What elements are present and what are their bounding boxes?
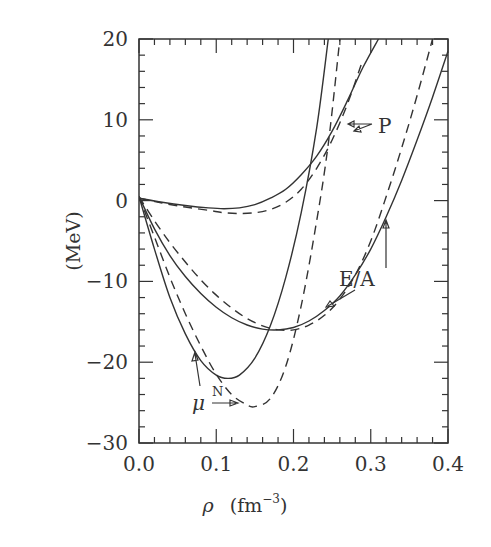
y-tick-label: 0 <box>115 189 128 213</box>
arrow-icon <box>326 220 389 307</box>
tick-labels: 0.00.10.20.30.420100−10−20−30 <box>86 27 464 476</box>
x-tick-label: 0.4 <box>432 452 464 476</box>
svg-text:E/A: E/A <box>339 267 375 291</box>
curves <box>139 39 448 407</box>
y-tick-label: −10 <box>86 269 128 293</box>
x-axis-exp: −3 <box>262 492 280 506</box>
y-tick-label: 20 <box>103 27 128 51</box>
chart: 0.00.10.20.30.420100−10−20−30 (MeV) ρ (f… <box>0 0 491 547</box>
series-line <box>139 39 340 407</box>
y-tick-label: −20 <box>86 350 128 374</box>
series-line <box>139 39 378 209</box>
svg-text:P: P <box>378 114 391 138</box>
axis-ticks <box>139 39 448 443</box>
series-line <box>139 39 433 330</box>
annotation-mu-n: μ N <box>192 352 238 415</box>
x-axis-symbol: ρ <box>202 494 215 516</box>
x-axis-title: ρ (fm−3) <box>202 492 288 516</box>
y-tick-label: 10 <box>103 108 128 132</box>
plot-frame <box>139 39 448 443</box>
svg-text:μ: μ <box>192 391 205 415</box>
x-axis-unit: (fm <box>230 494 262 516</box>
y-tick-label: −30 <box>86 431 128 455</box>
x-tick-label: 0.3 <box>355 452 387 476</box>
x-tick-label: 0.2 <box>278 452 310 476</box>
x-tick-label: 0.1 <box>200 452 232 476</box>
svg-text:N: N <box>212 384 223 399</box>
annotation-p: P <box>348 114 391 138</box>
annotation-ea: E/A <box>326 220 389 307</box>
y-axis-title: (MeV) <box>62 211 84 270</box>
x-tick-label: 0.0 <box>123 452 155 476</box>
x-axis-close: ) <box>280 494 287 516</box>
arrow-icon <box>348 121 372 132</box>
series-line <box>139 51 448 330</box>
